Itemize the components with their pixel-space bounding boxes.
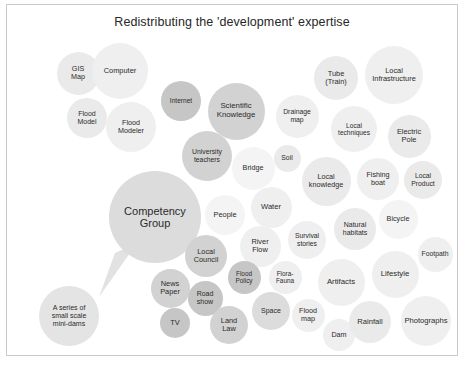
bubble-label: Drainagemap [283,108,311,123]
bubble-local-techniques[interactable]: Localtechniques [331,106,377,152]
bubble-label: Fishingboat [366,171,389,187]
bubble-label: LandLaw [221,317,237,334]
bubble-label: Artifacts [327,278,355,287]
bubble-flood-policy[interactable]: FloodPolicy [228,261,261,294]
bubble-space[interactable]: Space [252,292,290,330]
bubble-local-infrastructure[interactable]: LocalInfrastructure [365,46,423,104]
bubble-label: Universityteachers [192,148,222,163]
bubble-internet[interactable]: Internet [161,81,201,121]
bubble-label: GISMap [71,65,85,81]
bubble-label: ElectricPole [397,128,421,145]
bubble-label: Rainfall [357,318,382,327]
bubble-label: FloodPolicy [235,270,252,284]
bubble-computer[interactable]: Computer [92,43,148,99]
bubble-people[interactable]: People [205,195,245,235]
bubble-label: Localknowledge [309,173,343,189]
bubble-diagram: GISMapComputerFloodModelFloodModelerInte… [7,5,458,356]
bubble-label: Localtechniques [338,122,370,137]
bubble-label: Computer [104,67,136,75]
bubble-label: Bridge [243,164,264,172]
bubble-natural-habitats[interactable]: Naturalhabitats [334,208,376,250]
slide-canvas: Redistributing the 'development' experti… [6,4,458,356]
bubble-bridge[interactable]: Bridge [232,147,275,190]
bubble-flood-model[interactable]: FloodModel [67,98,107,138]
bubble-footpath[interactable]: Footpath [418,237,453,272]
bubble-label: Space [261,307,281,315]
bubble-land-law[interactable]: LandLaw [210,306,248,344]
bubble-tube-train[interactable]: Tube(Train) [314,56,358,100]
bubble-label: FloodModel [77,110,96,126]
bubble-label: People [213,211,236,219]
bubble-label: Roadshow [197,290,214,306]
bubble-university-teachers[interactable]: Universityteachers [182,131,232,181]
bubble-label: RiverFlow [251,238,268,255]
bubble-water[interactable]: Water [251,187,292,228]
bubble-electric-pole[interactable]: ElectricPole [388,115,431,158]
bubble-label: Water [261,203,281,212]
bubble-label: A series ofsmall scalemini-dams [52,304,87,327]
bubble-label: Photographs [404,317,447,326]
bubble-flora-fauna[interactable]: Flora-Fauna [269,261,302,294]
bubble-label: Tube(Train) [325,70,347,87]
bubble-label: Internet [170,97,192,104]
bubble-label: Soil [281,154,292,162]
bubble-label: Dam [331,331,346,339]
bubble-fishing-boat[interactable]: Fishingboat [357,158,399,200]
bubble-label: LocalInfrastructure [372,67,416,84]
bubble-label: Survivalstories [295,232,319,247]
bubble-flood-modeler[interactable]: FloodModeler [106,102,156,152]
bubble-label: NewsPaper [160,280,180,297]
bubble-soil[interactable]: Soil [274,145,301,172]
bubble-label: LocalProduct [411,172,434,187]
bubble-label: Bicycle [387,215,410,223]
bubble-label: LocalCouncil [194,248,219,265]
bubble-bicycle[interactable]: Bicycle [379,200,418,239]
bubble-survival-stories[interactable]: Survivalstories [288,221,326,259]
bubble-a-series-of-small-scale-mini-dams[interactable]: A series ofsmall scalemini-dams [39,286,99,346]
bubble-news-paper[interactable]: NewsPaper [151,269,190,308]
bubble-label: TV [170,319,179,327]
bubble-label: ScientificKnowledge [217,102,256,119]
bubble-drainage-map[interactable]: Drainagemap [276,95,319,138]
bubble-rainfall[interactable]: Rainfall [349,301,391,343]
bubble-artifacts[interactable]: Artifacts [318,259,365,306]
bubble-tv[interactable]: TV [160,308,190,338]
bubble-lifestyle[interactable]: Lifestyle [372,251,419,298]
bubble-label: Naturalhabitats [343,221,368,237]
bubble-label: Footpath [422,250,449,258]
bubble-label: Floodmap [299,307,317,323]
bubble-label: Flora-Fauna [276,270,294,284]
bubble-label: CompetencyGroup [124,205,186,230]
bubble-scientific-knowledge[interactable]: ScientificKnowledge [208,83,265,140]
bubble-local-product[interactable]: LocalProduct [404,161,442,199]
bubble-local-knowledge[interactable]: Localknowledge [302,157,351,206]
bubble-label: FloodModeler [118,119,144,135]
bubble-flood-map[interactable]: Floodmap [292,299,325,332]
bubble-label: Lifestyle [381,270,410,279]
bubble-local-council[interactable]: LocalCouncil [185,235,227,277]
bubble-photographs[interactable]: Photographs [401,296,451,346]
